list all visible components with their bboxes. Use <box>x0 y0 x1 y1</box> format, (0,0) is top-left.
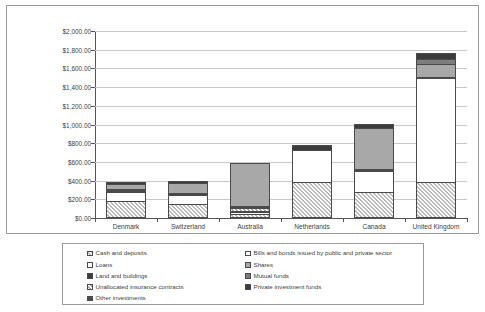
legend-swatch-icon <box>87 284 93 290</box>
bar-segment <box>416 59 456 64</box>
bar-australia <box>230 163 270 218</box>
legend-label: Private investment funds <box>254 284 322 290</box>
y-tick-mark <box>91 125 95 126</box>
legend-swatch-icon <box>245 251 251 257</box>
bar-segment <box>354 171 394 192</box>
gridline <box>95 162 467 163</box>
legend-label: Cash and deposits <box>96 250 147 256</box>
y-tick-label: $2,000.00 <box>63 28 91 35</box>
legend-item: Shares <box>245 259 392 270</box>
y-tick-label: $1,400.00 <box>63 84 91 91</box>
x-tick-mark <box>405 218 406 222</box>
gridline <box>95 181 467 182</box>
chart-screenshot: US $ Billions $0.00$200.00$400.00$600.00… <box>0 0 485 312</box>
y-tick-label: $0.00 <box>75 215 91 222</box>
bar-segment <box>292 145 332 150</box>
chart-legend: Cash and depositsLoansLand and buildings… <box>62 243 424 305</box>
y-tick-mark <box>91 199 95 200</box>
legend-swatch-icon <box>245 262 251 268</box>
bar-segment <box>230 208 270 211</box>
bar-segment <box>168 204 208 218</box>
legend-item: Bills and bonds issued by public and pri… <box>245 248 392 259</box>
y-tick-label: $1,800.00 <box>63 46 91 53</box>
y-tick-mark <box>91 87 95 88</box>
bar-segment <box>416 64 456 77</box>
bar-denmark <box>106 182 146 218</box>
legend-label: Bills and bonds issued by public and pri… <box>254 250 393 256</box>
x-tick-mark <box>343 218 344 222</box>
y-tick-label: $600.00 <box>68 158 91 165</box>
x-tick-label: Australia <box>237 223 263 230</box>
bar-segment <box>230 214 270 218</box>
legend-swatch-icon <box>87 251 93 257</box>
x-tick-mark <box>95 218 96 222</box>
bar-segment <box>416 78 456 182</box>
legend-label: Mutual funds <box>254 273 289 279</box>
legend-swatch-icon <box>87 273 93 279</box>
bar-segment <box>416 182 456 218</box>
gridline <box>95 31 467 32</box>
legend-label: Shares <box>254 262 274 268</box>
legend-label: Unallocated insurance contracts <box>96 284 184 290</box>
bar-segment <box>230 212 270 214</box>
bar-united-kingdom <box>416 53 456 218</box>
bar-segment <box>106 201 146 218</box>
y-tick-label: $1,600.00 <box>63 65 91 72</box>
y-tick-label: $1,000.00 <box>63 121 91 128</box>
gridline <box>95 125 467 126</box>
x-tick-label: Denmark <box>113 223 140 230</box>
y-tick-mark <box>91 68 95 69</box>
legend-label: Land and buildings <box>96 273 148 279</box>
bar-segment <box>416 77 456 78</box>
x-tick-label: United Kingdom <box>413 223 460 230</box>
legend-label: Other investments <box>96 295 146 301</box>
y-tick-label: $800.00 <box>68 140 91 147</box>
y-tick-mark <box>91 31 95 32</box>
y-tick-label: $400.00 <box>68 177 91 184</box>
legend-item: Loans <box>87 259 184 270</box>
legend-swatch-icon <box>245 284 251 290</box>
bar-segment <box>354 170 394 171</box>
gridline <box>95 50 467 51</box>
legend-label: Loans <box>96 262 113 268</box>
gridline <box>95 199 467 200</box>
x-tick-mark <box>219 218 220 222</box>
bar-segment <box>354 124 394 128</box>
gridline <box>95 143 467 144</box>
legend-item: Land and buildings <box>87 270 184 281</box>
bar-segment <box>168 194 208 195</box>
bar-segment <box>168 195 208 204</box>
plot-area: $0.00$200.00$400.00$600.00$800.00$1,000.… <box>95 31 467 218</box>
x-tick-mark <box>281 218 282 222</box>
bar-netherlands <box>292 145 332 218</box>
bar-segment <box>106 184 146 189</box>
bar-segment <box>168 183 208 193</box>
bar-segment <box>416 53 456 59</box>
bar-segment <box>106 191 146 192</box>
x-tick-label: Switzerland <box>171 223 205 230</box>
x-tick-mark <box>467 218 468 222</box>
x-tick-label: Canada <box>362 223 385 230</box>
x-tick-label: Netherlands <box>294 223 330 230</box>
bar-segment <box>354 192 394 218</box>
legend-column-right: Bills and bonds issued by public and pri… <box>245 248 392 293</box>
bar-segment <box>292 150 332 183</box>
gridline <box>95 106 467 107</box>
y-tick-mark <box>91 181 95 182</box>
x-tick-mark <box>157 218 158 222</box>
bar-segment <box>106 182 146 184</box>
y-tick-label: $200.00 <box>68 196 91 203</box>
bar-segment <box>168 181 208 182</box>
legend-swatch-icon <box>87 296 93 302</box>
chart-plot-frame: US $ Billions $0.00$200.00$400.00$600.00… <box>6 5 479 234</box>
bar-segment <box>354 169 394 170</box>
bar-segment <box>168 193 208 194</box>
bar-segment <box>354 128 394 169</box>
y-tick-mark <box>91 50 95 51</box>
legend-item: Cash and deposits <box>87 248 184 259</box>
y-tick-mark <box>91 143 95 144</box>
gridline <box>95 87 467 88</box>
legend-item: Unallocated insurance contracts <box>87 282 184 293</box>
y-tick-mark <box>91 106 95 107</box>
bar-segment <box>230 206 270 207</box>
